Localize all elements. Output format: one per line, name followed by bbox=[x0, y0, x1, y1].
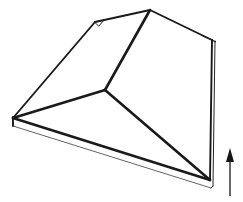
figure-canvas: Hip roof slab line drawing bbox=[0, 0, 243, 202]
hip-roof-line-drawing bbox=[0, 0, 243, 202]
